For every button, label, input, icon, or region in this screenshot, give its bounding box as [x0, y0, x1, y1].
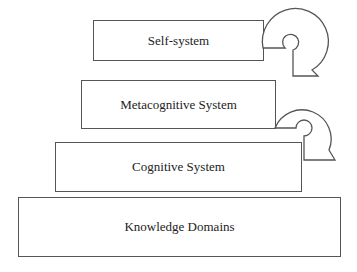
curled-arrow-icon [0, 0, 357, 272]
curled-arrow-self-to-meta-icon [262, 9, 328, 76]
curled-arrow-meta-to-cog-icon [275, 110, 335, 160]
